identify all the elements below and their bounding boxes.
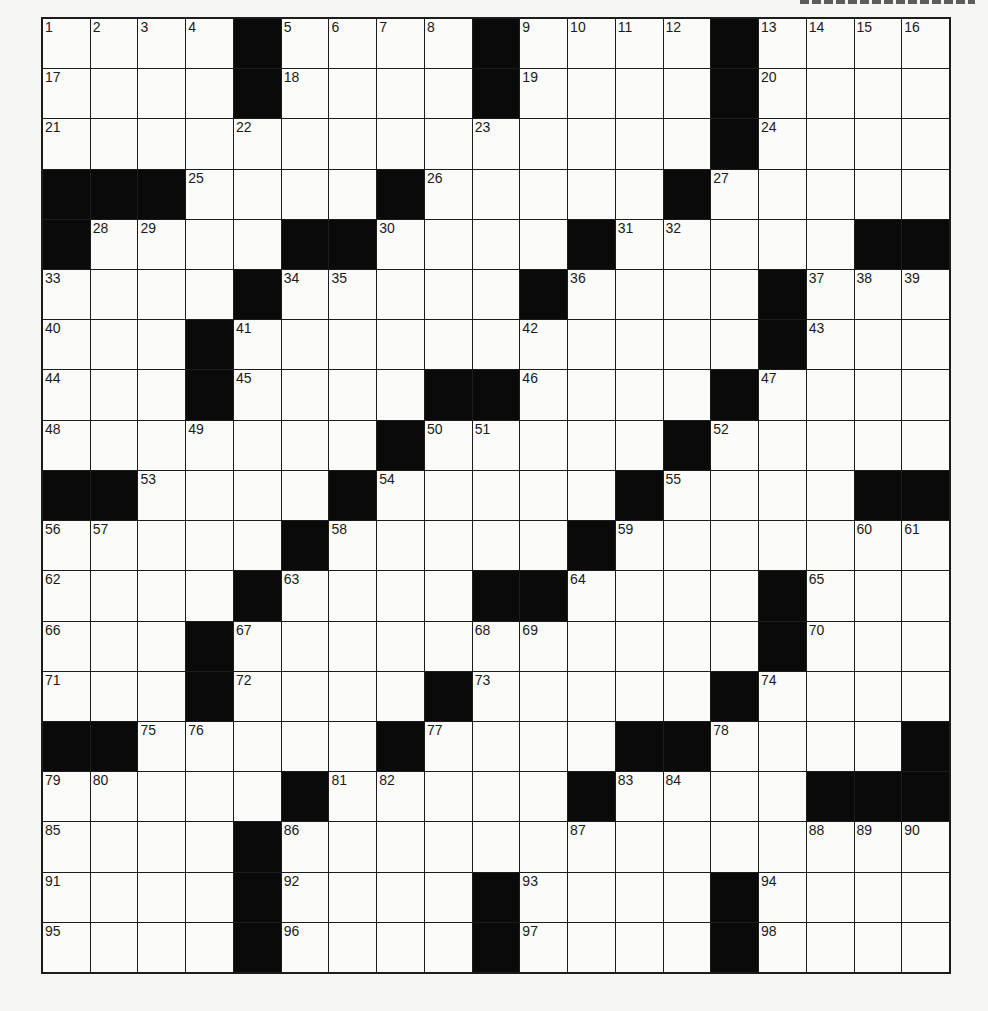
grid-cell[interactable]: 53: [138, 471, 185, 520]
grid-cell[interactable]: [329, 421, 376, 470]
grid-cell[interactable]: 21: [43, 119, 90, 168]
grid-cell[interactable]: [568, 370, 615, 419]
grid-cell[interactable]: 31: [616, 220, 663, 269]
grid-cell[interactable]: [616, 119, 663, 168]
grid-cell[interactable]: [855, 370, 902, 419]
grid-cell[interactable]: 15: [855, 19, 902, 68]
grid-cell[interactable]: [91, 320, 138, 369]
grid-cell[interactable]: 62: [43, 571, 90, 620]
grid-cell[interactable]: [282, 421, 329, 470]
grid-cell[interactable]: [329, 873, 376, 922]
grid-cell[interactable]: 55: [664, 471, 711, 520]
grid-cell[interactable]: 44: [43, 370, 90, 419]
grid-cell[interactable]: 6: [329, 19, 376, 68]
grid-cell[interactable]: 33: [43, 270, 90, 319]
grid-cell[interactable]: [329, 822, 376, 871]
grid-cell[interactable]: 27: [711, 170, 758, 219]
grid-cell[interactable]: [425, 822, 472, 871]
grid-cell[interactable]: [329, 170, 376, 219]
grid-cell[interactable]: [664, 822, 711, 871]
grid-cell[interactable]: [282, 320, 329, 369]
grid-cell[interactable]: [329, 69, 376, 118]
grid-cell[interactable]: 59: [616, 521, 663, 570]
grid-cell[interactable]: [616, 923, 663, 972]
grid-cell[interactable]: [473, 320, 520, 369]
grid-cell[interactable]: 7: [377, 19, 424, 68]
grid-cell[interactable]: 2: [91, 19, 138, 68]
grid-cell[interactable]: [234, 521, 281, 570]
grid-cell[interactable]: 26: [425, 170, 472, 219]
grid-cell[interactable]: [520, 119, 567, 168]
grid-cell[interactable]: 36: [568, 270, 615, 319]
grid-cell[interactable]: [616, 822, 663, 871]
grid-cell[interactable]: [520, 722, 567, 771]
grid-cell[interactable]: 46: [520, 370, 567, 419]
grid-cell[interactable]: [377, 923, 424, 972]
grid-cell[interactable]: 50: [425, 421, 472, 470]
grid-cell[interactable]: 86: [282, 822, 329, 871]
grid-cell[interactable]: [902, 622, 949, 671]
grid-cell[interactable]: [91, 370, 138, 419]
grid-cell[interactable]: 69: [520, 622, 567, 671]
grid-cell[interactable]: [186, 471, 233, 520]
grid-cell[interactable]: [91, 923, 138, 972]
grid-cell[interactable]: 58: [329, 521, 376, 570]
grid-cell[interactable]: [759, 471, 806, 520]
grid-cell[interactable]: [759, 170, 806, 219]
grid-cell[interactable]: 64: [568, 571, 615, 620]
grid-cell[interactable]: 28: [91, 220, 138, 269]
grid-cell[interactable]: [520, 421, 567, 470]
grid-cell[interactable]: 65: [807, 571, 854, 620]
grid-cell[interactable]: [664, 521, 711, 570]
grid-cell[interactable]: [91, 119, 138, 168]
grid-cell[interactable]: [902, 119, 949, 168]
grid-cell[interactable]: [91, 270, 138, 319]
grid-cell[interactable]: [711, 521, 758, 570]
grid-cell[interactable]: 83: [616, 772, 663, 821]
grid-cell[interactable]: [568, 69, 615, 118]
grid-cell[interactable]: 93: [520, 873, 567, 922]
grid-cell[interactable]: [282, 471, 329, 520]
grid-cell[interactable]: [377, 521, 424, 570]
grid-cell[interactable]: [807, 923, 854, 972]
grid-cell[interactable]: [234, 722, 281, 771]
grid-cell[interactable]: [91, 822, 138, 871]
grid-cell[interactable]: [377, 69, 424, 118]
grid-cell[interactable]: [138, 672, 185, 721]
grid-cell[interactable]: [711, 822, 758, 871]
grid-cell[interactable]: 60: [855, 521, 902, 570]
grid-cell[interactable]: 70: [807, 622, 854, 671]
grid-cell[interactable]: 91: [43, 873, 90, 922]
grid-cell[interactable]: [186, 923, 233, 972]
grid-cell[interactable]: [91, 672, 138, 721]
grid-cell[interactable]: [329, 119, 376, 168]
grid-cell[interactable]: 61: [902, 521, 949, 570]
grid-cell[interactable]: [616, 69, 663, 118]
grid-cell[interactable]: [138, 822, 185, 871]
grid-cell[interactable]: 14: [807, 19, 854, 68]
grid-cell[interactable]: [520, 521, 567, 570]
grid-cell[interactable]: 76: [186, 722, 233, 771]
grid-cell[interactable]: [759, 220, 806, 269]
grid-cell[interactable]: [855, 69, 902, 118]
grid-cell[interactable]: 47: [759, 370, 806, 419]
grid-cell[interactable]: 82: [377, 772, 424, 821]
grid-cell[interactable]: 54: [377, 471, 424, 520]
grid-cell[interactable]: 85: [43, 822, 90, 871]
grid-cell[interactable]: [186, 822, 233, 871]
grid-cell[interactable]: 66: [43, 622, 90, 671]
grid-cell[interactable]: [138, 421, 185, 470]
grid-cell[interactable]: [282, 622, 329, 671]
grid-cell[interactable]: 88: [807, 822, 854, 871]
grid-cell[interactable]: 3: [138, 19, 185, 68]
grid-cell[interactable]: 23: [473, 119, 520, 168]
grid-cell[interactable]: [807, 69, 854, 118]
grid-cell[interactable]: 77: [425, 722, 472, 771]
grid-cell[interactable]: [473, 471, 520, 520]
grid-cell[interactable]: [520, 170, 567, 219]
grid-cell[interactable]: [711, 571, 758, 620]
grid-cell[interactable]: [616, 672, 663, 721]
grid-cell[interactable]: [91, 69, 138, 118]
grid-cell[interactable]: 51: [473, 421, 520, 470]
grid-cell[interactable]: [282, 722, 329, 771]
